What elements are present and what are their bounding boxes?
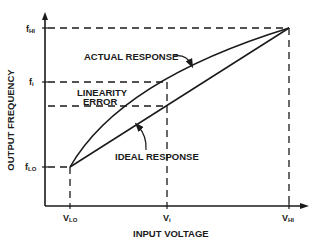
linearity-error-label-2: ERROR <box>83 96 117 107</box>
y-axis-arrow-icon <box>42 12 48 20</box>
x-axis-title: INPUT VOLTAGE <box>133 228 209 239</box>
v-i-label: Vi <box>163 213 171 223</box>
ideal-response-leader <box>138 126 146 150</box>
f-hi-label: fHI <box>26 24 35 34</box>
actual-response-label: ACTUAL RESPONSE <box>84 51 178 62</box>
f-i-label: fi <box>29 77 34 87</box>
x-axis-arrow-icon <box>300 203 309 209</box>
ideal-response-label: IDEAL RESPONSE <box>115 151 199 162</box>
v-lo-label: VLO <box>63 213 78 223</box>
f-lo-label: fLO <box>25 162 37 172</box>
v-hi-label: VHI <box>282 213 294 223</box>
y-axis-title: OUTPUT FREQUENCY <box>5 69 16 171</box>
vfc-linearity-diagram: ACTUAL RESPONSE IDEAL RESPONSE LINEARITY… <box>0 0 319 247</box>
